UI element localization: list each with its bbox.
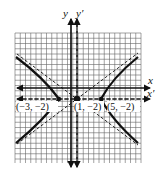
x-prime-axis-label: x′ [146, 87, 155, 99]
y-prime-axis-label: y′ [75, 7, 84, 19]
y-axis-label: y [62, 7, 68, 19]
hyperbola-diagram: y y′ x x′ (−3, −2) (1, −2) (5, −2) [0, 0, 164, 172]
vertex-right-label: (5, −2) [107, 101, 134, 113]
x-axis-label: x [147, 74, 153, 86]
vertex-left [57, 97, 61, 101]
center-label: (1, −2) [74, 101, 101, 113]
vertex-left-label: (−3, −2) [16, 101, 49, 113]
